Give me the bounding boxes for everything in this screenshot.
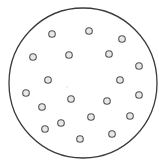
dotted-circle-diagram — [0, 0, 159, 162]
dot — [127, 113, 134, 120]
dot — [45, 77, 52, 84]
dot — [58, 120, 65, 127]
dot — [42, 126, 49, 133]
dot — [49, 31, 56, 38]
dot — [39, 104, 46, 111]
center-mark — [66, 86, 67, 87]
dot — [106, 51, 113, 58]
outer-circle — [9, 8, 157, 158]
dot — [77, 136, 84, 143]
dot — [136, 92, 143, 99]
dot — [23, 90, 30, 97]
dot — [66, 52, 73, 59]
dot — [109, 131, 116, 138]
dot — [136, 63, 143, 70]
dot — [86, 28, 93, 35]
dot — [117, 77, 124, 84]
dot — [104, 98, 111, 105]
dot — [68, 96, 75, 103]
dot — [88, 114, 95, 121]
dots-group — [23, 28, 143, 143]
dot — [30, 54, 37, 61]
dot — [119, 36, 126, 43]
